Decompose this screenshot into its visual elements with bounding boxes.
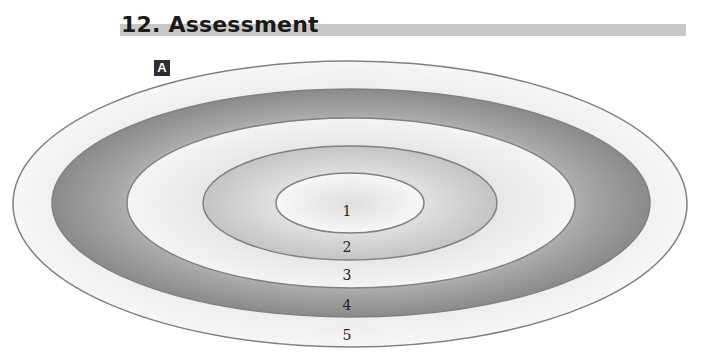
ring-label-2: 2 <box>343 239 352 255</box>
ring-label-3: 3 <box>343 267 352 283</box>
ring-label-1: 1 <box>343 203 352 219</box>
ring-label-4: 4 <box>343 297 352 313</box>
concentric-rings-diagram: 1 2 3 4 5 <box>0 0 703 358</box>
ring-label-5: 5 <box>343 327 352 343</box>
